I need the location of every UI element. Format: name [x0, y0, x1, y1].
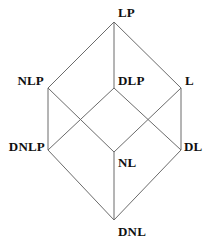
node-label-nlp: NLP	[17, 74, 44, 87]
hasse-diagram: LPNLPDLPLDNLPNLDLDNL	[0, 0, 209, 243]
node-label-dnlp: DNLP	[9, 140, 45, 153]
node-label-l: L	[185, 74, 194, 87]
node-label-dnl: DNL	[118, 225, 146, 238]
edge-lp-nlp	[48, 22, 114, 88]
node-label-dl: DL	[184, 140, 202, 153]
node-label-lp: LP	[118, 6, 135, 19]
node-label-nl: NL	[118, 156, 136, 169]
node-label-dlp: DLP	[118, 74, 145, 87]
edge-layer	[0, 0, 209, 243]
edge-dnlp-dnl	[48, 150, 114, 220]
